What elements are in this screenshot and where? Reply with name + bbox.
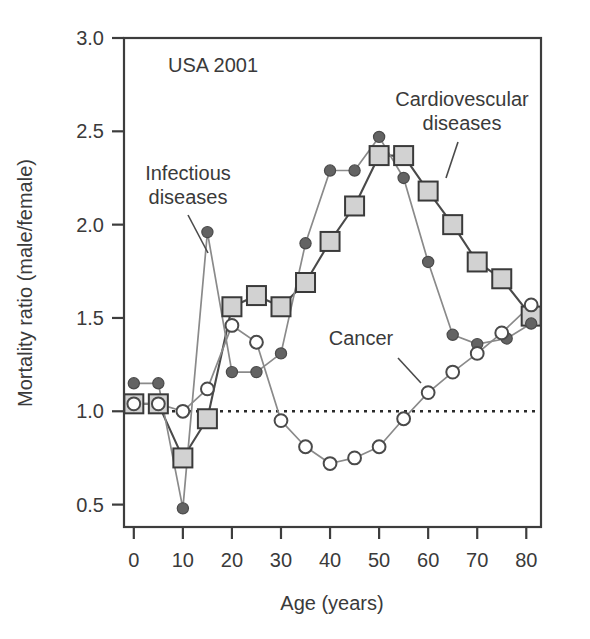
data-point-marker [176,405,189,418]
data-point-marker [443,215,462,234]
y-tick-label: 3.0 [76,27,104,49]
x-tick-label: 30 [270,549,292,571]
annotation-cancer-label: Cancer [329,327,394,349]
data-point-marker [271,297,290,316]
y-axis-tick-labels: 0.51.01.52.02.53.0 [76,27,104,516]
y-tick-label: 0.5 [76,494,104,516]
data-point-marker [446,366,459,379]
data-point-marker [373,440,386,453]
data-point-marker [374,131,385,142]
x-tick-label: 70 [466,549,488,571]
data-point-marker [251,366,262,377]
data-point-marker [468,252,487,271]
x-tick-label: 60 [417,549,439,571]
data-point-marker [321,232,340,251]
y-tick-label: 1.0 [76,400,104,422]
data-point-marker [152,397,165,410]
x-tick-label: 40 [319,549,341,571]
data-point-marker [247,286,266,305]
data-point-marker [370,146,389,165]
y-tick-label: 2.0 [76,214,104,236]
x-axis-ticks [134,527,526,539]
page-bottom-margin [0,617,590,639]
data-point-marker [398,172,409,183]
x-tick-label: 20 [221,549,243,571]
data-point-marker [345,196,364,215]
data-point-marker [495,326,508,339]
y-axis-title: Mortality ratio (male/female) [14,159,36,407]
data-point-marker [202,227,213,238]
data-point-marker [275,348,286,359]
y-axis-ticks [112,38,124,505]
x-tick-label: 50 [368,549,390,571]
x-axis-tick-labels: 01020304050607080 [128,549,537,571]
mortality-ratio-chart: 01020304050607080 0.51.01.52.02.53.0 Age… [0,0,590,639]
data-point-marker [250,336,263,349]
data-point-marker [348,452,361,465]
panel-title: USA 2001 [168,54,258,76]
data-point-marker [394,146,413,165]
data-point-marker [275,414,288,427]
annotation-infectious-line2: diseases [149,186,228,208]
data-point-marker [349,165,360,176]
data-point-marker [201,382,214,395]
data-point-marker [447,329,458,340]
y-tick-label: 1.5 [76,307,104,329]
data-point-marker [419,182,438,201]
data-point-marker [525,299,538,312]
data-point-marker [324,165,335,176]
data-point-marker [423,256,434,267]
annotation-cardiovascular-line1: Cardiovescular [395,88,529,110]
x-tick-label: 80 [515,549,537,571]
data-point-marker [226,319,239,332]
annotation-cardiovascular-line2: diseases [423,112,502,134]
data-point-marker [300,238,311,249]
annotation-infectious-line1: Infectious [145,162,231,184]
data-point-marker [422,386,435,399]
data-point-marker [177,503,188,514]
data-point-marker [471,347,484,360]
x-axis-title: Age (years) [280,592,383,614]
x-tick-label: 0 [128,549,139,571]
figure-root: 01020304050607080 0.51.01.52.02.53.0 Age… [0,0,590,639]
data-point-marker [296,273,315,292]
data-point-marker [526,318,537,329]
data-point-marker [397,412,410,425]
y-tick-label: 2.5 [76,120,104,142]
data-point-marker [492,269,511,288]
data-point-marker [324,457,337,470]
data-point-marker [128,378,139,389]
data-point-marker [222,297,241,316]
data-point-marker [226,366,237,377]
data-point-marker [299,440,312,453]
data-point-marker [127,397,140,410]
x-tick-label: 10 [172,549,194,571]
data-point-marker [198,409,217,428]
data-point-marker [173,448,192,467]
data-point-marker [153,378,164,389]
